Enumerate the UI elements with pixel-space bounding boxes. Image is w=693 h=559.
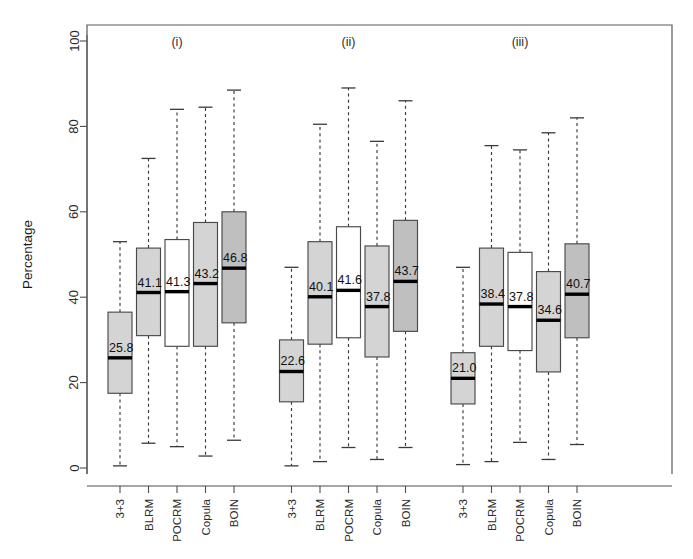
x-axis-tick-label: 3+3 [457,499,469,519]
median-value-label: 34.6 [538,303,562,317]
median-value-label: 41.1 [138,276,162,290]
boxplot-figure: 020406080100 25.841.141.343.246.822.640.… [0,0,693,559]
x-axis-tick-label: POCRM [171,499,183,542]
median-value-label: 22.6 [281,354,305,368]
y-axis-tick-label: 80 [67,119,82,133]
y-axis-tick-label: 0 [67,464,82,471]
median-value-label: 41.3 [166,275,190,289]
median-value-label: 46.8 [223,251,247,265]
x-axis-tick-label: BLRM [143,499,155,531]
boxplot-svg: 020406080100 25.841.141.343.246.822.640.… [0,0,693,559]
median-value-label: 43.2 [195,267,219,281]
panel-title: (i) [171,35,182,49]
x-axis-tick-label: Copula [371,498,383,535]
median-value-label: 41.6 [338,273,362,287]
x-axis-tick-label: BLRM [486,499,498,531]
median-value-label: 43.7 [395,264,419,278]
median-value-label: 38.4 [481,287,505,301]
x-axis-tick-label: 3+3 [114,499,126,519]
x-axis-tick-label: POCRM [343,499,355,542]
median-value-label: 40.1 [309,280,333,294]
y-axis-title-group: Percentage [20,220,35,289]
x-axis-tick-label: POCRM [514,499,526,542]
y-axis-title: Percentage [20,220,35,289]
x-axis-tick-label: BLRM [314,499,326,531]
y-axis-tick-label: 60 [67,205,82,219]
x-axis-tick-label: Copula [543,498,555,535]
panel-title: (iii) [512,35,529,49]
y-axis-tick-label: 40 [67,290,82,304]
x-axis-tick-label: BOIN [400,499,412,527]
x-axis-tick-label: Copula [200,498,212,535]
median-value-label: 25.8 [109,341,133,355]
median-value-label: 21.0 [452,361,476,375]
y-axis-tick-label: 20 [67,375,82,389]
x-axis-tick-label: BOIN [228,499,240,527]
median-value-label: 37.8 [509,290,533,304]
median-value-label: 37.8 [366,290,390,304]
y-axis-tick-label: 100 [67,30,82,52]
x-axis-tick-label: 3+3 [286,499,298,519]
median-value-label: 40.7 [566,277,590,291]
panel-title: (ii) [342,35,356,49]
x-axis-tick-label: BOIN [571,499,583,527]
